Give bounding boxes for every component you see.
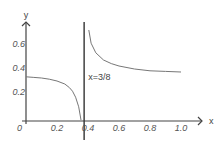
y-tick-label: 0.6 [12,39,25,49]
y-tick-label: 0.4 [12,63,25,73]
x-tick-label: 0.4 [82,123,95,133]
y-tick-label: 0.2 [12,87,25,97]
chart: 0.20.40.60.81.00.20.40.60xyx=3/8 [0,0,221,149]
x-tick-label: 0.6 [113,123,126,133]
origin-label: 0 [17,123,22,133]
x-tick-label: 1.0 [175,123,188,133]
x-tick-label: 0.2 [51,123,64,133]
asymptote-label: x=3/8 [88,72,110,82]
x-tick-label: 0.8 [144,123,157,133]
x-axis-label: x [209,116,214,126]
curve-right-branch [89,30,181,72]
curve-left-branch [26,77,81,120]
y-axis-label: y [24,10,29,20]
